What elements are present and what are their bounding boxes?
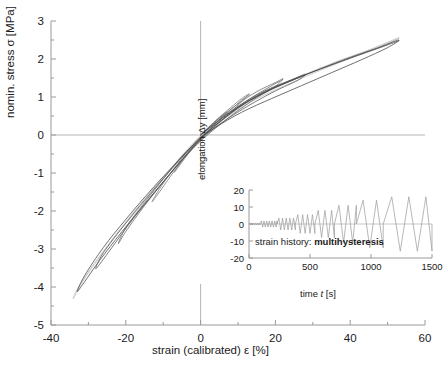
inset-y-axis-title: elongation Δy [mm] (196, 99, 207, 180)
inset-y-tick-label: 0 (239, 219, 244, 230)
inset-x-tick-label: 1500 (421, 261, 442, 272)
x-tick-label: 20 (269, 332, 282, 344)
strain-history-value: multihysteresis (314, 236, 384, 247)
inset-y-tick-label: 20 (233, 185, 244, 196)
y-axis-title: nomin. stress σ [MPa] (4, 6, 16, 118)
strain-history-annotation: strain history: multihysteresis (255, 236, 384, 247)
strain-history-prefix: strain history: (255, 236, 314, 247)
y-tick-label: 3 (38, 15, 44, 27)
x-axis-title: strain (calibrated) ε [%] (152, 344, 269, 356)
x-tick-label: 60 (419, 332, 432, 344)
inset-y-tick-label: -10 (230, 236, 244, 247)
x-tick-label: 0 (197, 332, 203, 344)
y-tick-label: -1 (34, 167, 44, 179)
y-tick-label: 1 (38, 91, 44, 103)
y-tick-label: -4 (34, 281, 45, 293)
x-tick-label: -40 (43, 332, 60, 344)
y-tick-label: 2 (38, 53, 44, 65)
inset-x-tick-label: 1000 (360, 261, 381, 272)
y-tick-label: -2 (34, 205, 44, 217)
chart-figure: -5-4-3-2-10123-40-200204060-20-100102005… (0, 0, 444, 382)
main-plot-canvas: -5-4-3-2-10123-40-200204060-20-100102005… (0, 0, 444, 382)
inset-x-axis-title: time t [s] (300, 288, 336, 299)
y-tick-label: -3 (34, 243, 44, 255)
inset-x-tick-label: 0 (246, 261, 251, 272)
inset-y-tick-label: -20 (230, 253, 244, 264)
inset-x-tick-label: 500 (302, 261, 318, 272)
y-tick-label: 0 (38, 129, 44, 141)
x-tick-label: 40 (344, 332, 357, 344)
y-tick-label: -5 (34, 319, 44, 331)
x-tick-label: -20 (117, 332, 134, 344)
inset-y-tick-label: 10 (233, 202, 244, 213)
